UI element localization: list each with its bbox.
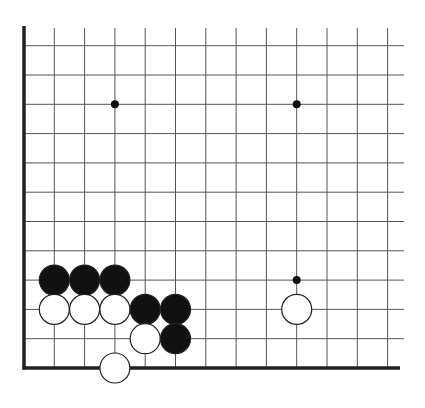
black-stone bbox=[39, 265, 69, 295]
star-point-icon bbox=[293, 100, 301, 108]
star-point-icon bbox=[111, 100, 119, 108]
go-board bbox=[0, 0, 425, 408]
black-stone bbox=[161, 294, 191, 324]
white-stone bbox=[100, 353, 130, 383]
white-stone bbox=[100, 294, 130, 324]
star-point-icon bbox=[293, 276, 301, 284]
black-stone bbox=[100, 265, 130, 295]
white-stone bbox=[39, 294, 69, 324]
black-stone bbox=[161, 324, 191, 354]
white-stone bbox=[282, 294, 312, 324]
white-stone bbox=[130, 324, 160, 354]
black-stone bbox=[130, 294, 160, 324]
white-stone bbox=[70, 294, 100, 324]
black-stone bbox=[70, 265, 100, 295]
